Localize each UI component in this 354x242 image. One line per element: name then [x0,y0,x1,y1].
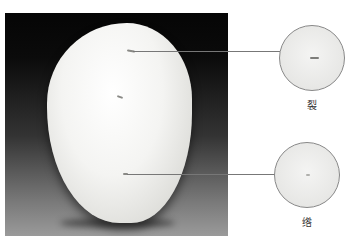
crack-mark-magnified [310,57,319,59]
vein-leader-line [127,174,275,175]
crack-label: 裂 [279,97,345,112]
crack-leader-line [133,51,280,52]
vein-label: 绺 [274,214,340,229]
crack-magnifier-circle [279,25,345,91]
vein-mark-magnified [306,174,310,176]
white-jade-pebble [47,23,192,223]
vein-magnifier-circle [274,142,340,208]
stone-photo [5,13,228,236]
